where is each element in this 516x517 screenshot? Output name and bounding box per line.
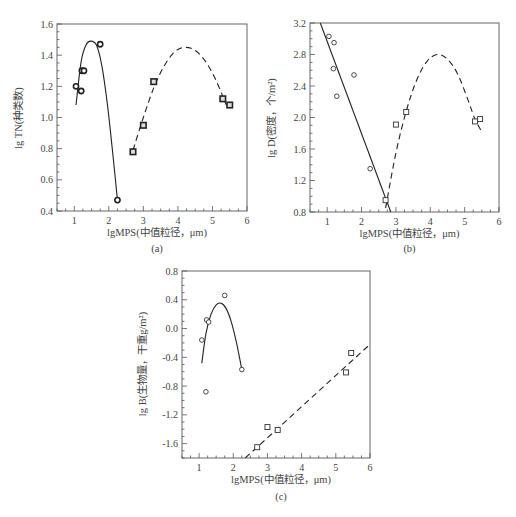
y-tick-label: 1.6 [294,144,307,155]
data-point-circle [98,42,103,47]
y-axis: 0.81.21.62.02.42.83.2 [294,18,316,218]
x-tick-label: 6 [245,215,250,226]
y-tick-label: 2.4 [294,81,307,92]
fit-curve-solid [202,303,242,370]
data-point-circle [204,390,209,395]
figure-canvas: 1234560.40.60.81.01.21.41.6lgMPS(中值粒径，μm… [0,0,516,517]
x-tick-label: 4 [299,462,304,473]
data-point-square [383,198,388,203]
data-points [200,293,354,450]
x-tick-label: 4 [428,216,433,227]
y-tick-label: 1.2 [41,81,54,92]
chart-panel-a: 1234560.40.60.81.01.21.41.6lgMPS(中值粒径，μm… [12,19,250,256]
y-tick-label: 0.4 [166,294,179,305]
y-tick-label: -1.6 [162,438,178,449]
x-tick-label: 2 [359,216,364,227]
data-point-square [404,109,409,114]
x-tick-label: 1 [197,462,202,473]
data-point-square [275,427,280,432]
y-axis-label: lg D(密度，个/m²) [265,78,278,158]
x-tick-label: 1 [325,216,330,227]
x-tick-label: 5 [210,215,215,226]
x-axis: 123456 [182,453,373,473]
data-point-circle [332,40,337,45]
y-tick-label: 0.8 [166,266,179,277]
x-tick-label: 6 [368,462,373,473]
data-point-circle [222,293,227,298]
data-point-square [472,119,477,124]
x-tick-label: 4 [175,215,180,226]
x-axis-label: lgMPS(中值粒径，μm) [107,226,207,239]
x-tick-label: 3 [265,462,270,473]
y-axis-label: lg B(生物量，干重g/m²) [136,311,149,416]
fit-curves [202,303,370,458]
data-point-square [265,425,270,430]
data-point-circle [79,88,84,93]
panel-label: (b) [403,243,416,255]
data-point-circle [331,66,336,71]
x-tick-label: 3 [141,215,146,226]
data-point-square [220,96,226,102]
y-tick-label: 2.8 [294,49,307,60]
x-axis-label: lgMPS(中值粒径，μm) [231,473,331,486]
chart-panel-b: 1234560.81.21.62.02.42.83.2lgMPS(中值粒径，μm… [265,18,502,256]
data-point-square [130,149,136,155]
y-tick-label: -0.4 [162,352,178,363]
y-tick-label: 3.2 [294,18,307,29]
y-tick-label: 0.8 [41,143,54,154]
x-axis-label: lgMPS(中值粒径，μm) [360,227,460,240]
y-tick-label: 0.4 [41,206,54,217]
x-tick-label: 2 [106,215,111,226]
data-point-circle [327,34,332,39]
panel-label: (c) [275,491,287,503]
fit-curve-solid [76,41,117,200]
data-point-circle [73,84,78,89]
data-point-circle [240,367,245,372]
fit-curve-dashed [386,54,482,208]
x-axis: 123456 [310,207,502,227]
data-point-square [344,370,349,375]
y-tick-label: 1.6 [41,19,54,30]
fit-curve-solid [320,23,390,212]
data-point-square [255,445,260,450]
y-tick-label: -1.2 [162,409,178,420]
y-tick-label: 1.4 [41,50,54,61]
data-point-square [393,122,398,127]
fit-curves [320,23,482,212]
fit-curves [76,41,226,200]
x-tick-label: 6 [497,216,502,227]
data-point-square [227,102,233,108]
x-axis: 123456 [57,206,250,226]
x-tick-label: 5 [462,216,467,227]
y-tick-label: 1.0 [41,112,54,123]
y-axis: 0.40.60.81.01.21.41.6 [41,19,63,217]
data-point-square [141,123,147,128]
data-point-circle [206,320,211,325]
data-point-square [478,117,483,122]
data-point-circle [200,338,205,343]
data-point-circle [368,166,373,171]
y-tick-label: 2.0 [294,112,307,123]
data-point-circle [352,73,357,78]
y-tick-label: 0.6 [41,174,54,185]
fit-curve-dashed [133,47,226,150]
data-point-circle [335,94,340,99]
y-tick-label: -0.8 [162,381,178,392]
x-tick-label: 1 [72,215,77,226]
y-tick-label: 0.0 [166,323,179,334]
data-point-circle [115,197,120,202]
panel-label: (a) [151,243,163,255]
data-point-circle [81,68,86,73]
x-tick-label: 2 [231,462,236,473]
y-tick-label: 0.8 [294,207,307,218]
fit-curve-dashed [245,344,370,458]
y-tick-label: 1.2 [294,175,307,186]
chart-panel-c: 123456-1.6-1.2-0.8-0.40.00.40.8lgMPS(中值粒… [136,266,373,504]
x-tick-label: 5 [333,462,338,473]
plot-frame [57,24,247,211]
data-point-square [151,79,157,85]
x-tick-label: 3 [393,216,398,227]
y-axis: -1.6-1.2-0.8-0.40.00.40.8 [162,266,187,459]
y-axis-label: lg TN(种类数) [12,87,25,149]
data-point-square [349,350,354,355]
